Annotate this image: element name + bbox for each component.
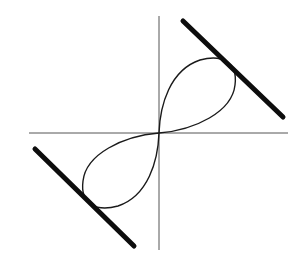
tangent-line-lower-left xyxy=(35,149,134,246)
diagram-svg xyxy=(0,0,305,259)
figure-eight-diagram xyxy=(0,0,305,259)
tangent-line-upper-right xyxy=(183,21,283,117)
curve-lower-loop xyxy=(83,133,159,208)
curve-upper-loop xyxy=(159,58,235,133)
